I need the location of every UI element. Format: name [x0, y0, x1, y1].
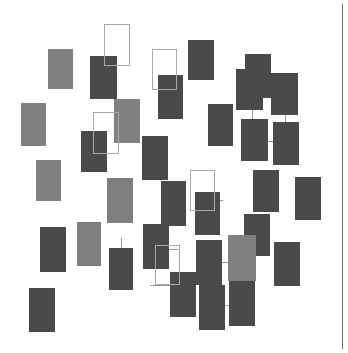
shape-layer [0, 0, 348, 353]
filled-rectangle-dark[interactable] [274, 242, 300, 286]
filled-rectangle-dark[interactable] [229, 281, 255, 326]
filled-rectangle-dark[interactable] [161, 181, 186, 226]
right-border-rule [342, 4, 343, 349]
outlined-rectangle[interactable] [155, 245, 180, 285]
filled-rectangle-dark[interactable] [199, 285, 225, 330]
filled-rectangle-dark[interactable] [196, 240, 222, 285]
filled-rectangle-light[interactable] [21, 103, 46, 146]
outlined-rectangle[interactable] [93, 112, 119, 154]
filled-rectangle-dark[interactable] [188, 40, 214, 80]
filled-rectangle-light[interactable] [77, 222, 101, 266]
outlined-rectangle[interactable] [104, 24, 130, 66]
filled-rectangle-light[interactable] [36, 160, 61, 201]
filled-rectangle-dark[interactable] [253, 170, 279, 212]
filled-rectangle-dark[interactable] [273, 122, 299, 165]
filled-rectangle-light[interactable] [48, 49, 73, 89]
filled-rectangle-dark[interactable] [208, 104, 233, 146]
rectangle-scatter-canvas [0, 0, 348, 353]
filled-rectangle-dark[interactable] [109, 248, 133, 290]
filled-rectangle-dark[interactable] [236, 69, 263, 110]
filled-rectangle-dark[interactable] [241, 119, 268, 161]
outlined-rectangle[interactable] [152, 49, 177, 90]
filled-rectangle-dark[interactable] [142, 136, 168, 180]
filled-rectangle-dark[interactable] [40, 227, 66, 272]
outlined-rectangle[interactable] [190, 170, 215, 211]
filled-rectangle-dark[interactable] [29, 288, 55, 332]
filled-rectangle-dark[interactable] [271, 73, 298, 115]
filled-rectangle-light[interactable] [107, 178, 133, 223]
filled-rectangle-light[interactable] [228, 235, 256, 281]
filled-rectangle-dark[interactable] [295, 177, 321, 220]
